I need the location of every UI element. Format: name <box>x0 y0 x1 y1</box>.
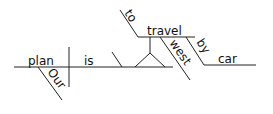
prepositional-object-word: car <box>218 52 237 66</box>
subject-word: plan <box>28 54 54 68</box>
infinitive-verb-word: travel <box>147 24 182 38</box>
pedestal-right-leg <box>150 53 165 67</box>
modifier-word: Our <box>45 66 69 92</box>
sentence-diagram: plan Our is travel to west by car <box>0 0 273 114</box>
complement-slash <box>112 52 122 67</box>
pedestal-left-leg <box>135 53 150 67</box>
infinitive-marker-word: to <box>122 7 140 25</box>
verb-word: is <box>84 54 94 68</box>
